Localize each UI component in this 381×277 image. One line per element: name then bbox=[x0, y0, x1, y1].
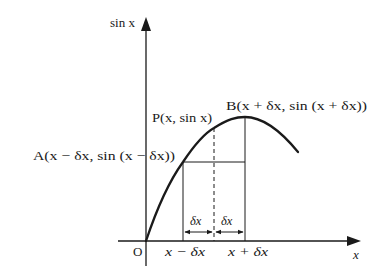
sine-derivative-diagram: sin x x O A(x − δx, sin (x − δx)) P(x, s… bbox=[0, 0, 381, 277]
tick-label-x-minus-dx: x − δx bbox=[164, 244, 205, 259]
y-axis-arrow-icon bbox=[141, 17, 151, 31]
point-B-label: B(x + δx, sin (x + δx)) bbox=[226, 98, 367, 113]
interval-label-left: δx bbox=[190, 214, 202, 228]
point-P-label: P(x, sin x) bbox=[152, 110, 212, 125]
x-axis-label: x bbox=[352, 247, 359, 262]
tick-label-x-plus-dx: x + δx bbox=[227, 244, 268, 259]
point-A-label: A(x − δx, sin (x − δx)) bbox=[33, 148, 175, 163]
y-axis-label: sin x bbox=[110, 15, 135, 30]
interval-label-right: δx bbox=[221, 214, 233, 228]
origin-label: O bbox=[133, 244, 142, 259]
x-axis-arrow-icon bbox=[347, 236, 361, 246]
